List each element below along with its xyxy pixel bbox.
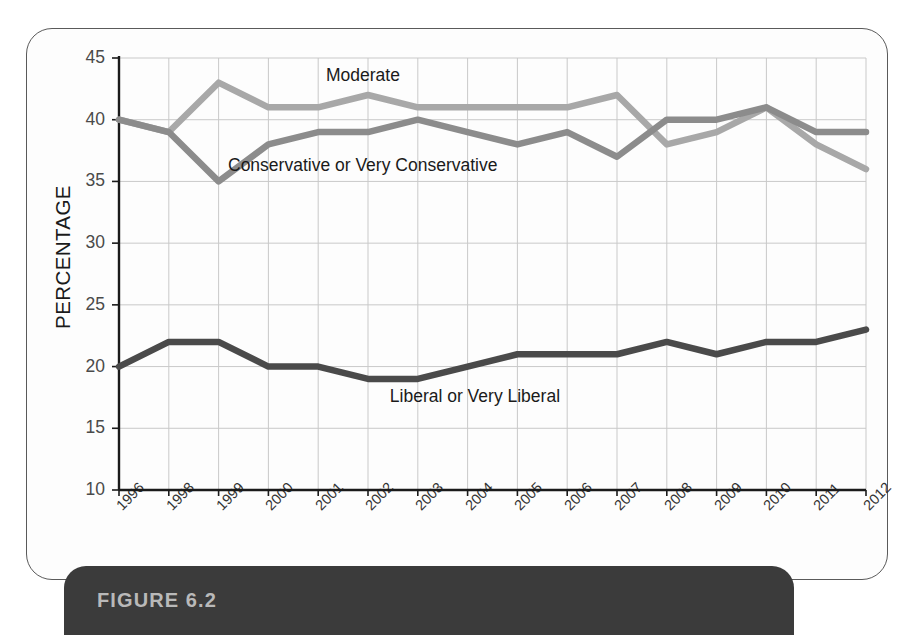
gridlines: [119, 58, 866, 490]
series-label-liberal: Liberal or Very Liberal: [390, 386, 560, 407]
series-line-liberal: [119, 330, 866, 379]
series-lines: [119, 83, 866, 379]
figure-page: PERCENTAGE 4540353025201510 199619981999…: [0, 0, 915, 635]
series-label-conservative: Conservative or Very Conservative: [228, 155, 497, 176]
figure-caption-banner: FIGURE 6.2: [64, 566, 794, 635]
axis-lines: [112, 56, 866, 496]
series-label-moderate: Moderate: [326, 65, 400, 86]
line-chart-svg: [0, 0, 915, 635]
figure-number: FIGURE 6.2: [97, 589, 217, 612]
chart-container: PERCENTAGE 4540353025201510 199619981999…: [0, 0, 915, 635]
